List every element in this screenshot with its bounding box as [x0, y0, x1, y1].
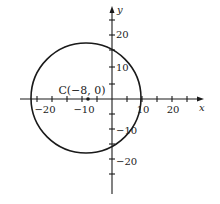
y-tick-label: 20 — [116, 29, 129, 40]
circle — [31, 43, 141, 153]
y-axis-label: y — [116, 4, 123, 15]
y-tick-label: 10 — [116, 62, 129, 73]
x-axis-arrow-icon — [197, 97, 204, 102]
y-tick-label: −20 — [116, 156, 137, 167]
center-label: C(−8, 0) — [58, 84, 105, 97]
x-tick-label: −20 — [34, 104, 55, 115]
x-tick-label: −10 — [73, 104, 94, 115]
y-tick-label: −10 — [116, 125, 137, 136]
center-point — [86, 97, 90, 101]
x-tick-label: 10 — [137, 104, 150, 115]
x-tick-label: 20 — [167, 104, 180, 115]
y-axis-arrow-icon — [110, 6, 115, 13]
x-axis-label: x — [199, 102, 205, 113]
coordinate-plane: C(−8, 0) y x −20 −10 10 20 20 10 −10 −20 — [0, 0, 220, 204]
